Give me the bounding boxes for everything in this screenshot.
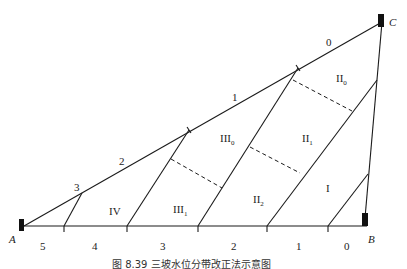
base-label-5: 5	[40, 240, 46, 252]
base-label-3: 3	[160, 240, 166, 252]
station-marker-C	[378, 14, 384, 27]
edge-CB	[365, 22, 382, 218]
station-marker-B	[362, 213, 368, 226]
ac-label-3: 3	[74, 181, 80, 193]
zone-boundaries	[64, 68, 377, 226]
ac-label-0: 0	[326, 36, 332, 48]
baseline-ticks	[64, 226, 328, 232]
base-label-2: 2	[231, 240, 237, 252]
base-label-4: 4	[92, 240, 98, 252]
zone-label-III0: III0	[220, 132, 235, 147]
zone-label-II2: II2	[253, 193, 264, 208]
base-label-0: 0	[344, 240, 350, 252]
point-label-C: C	[389, 16, 397, 28]
subzone-dividers	[171, 80, 352, 188]
figure-caption: 图 8.39 三坡水位分带改正法示意图	[112, 258, 271, 269]
point-label-B: B	[368, 233, 375, 245]
ac-label-1: 1	[232, 91, 238, 103]
zone-label-II0: II0	[336, 72, 347, 87]
point-label-A: A	[8, 233, 16, 245]
edge-AC	[24, 22, 382, 226]
ac-ticks	[187, 65, 300, 133]
zone-label-IV: IV	[109, 205, 121, 217]
station-marker-A	[19, 219, 24, 231]
zone-label-I: I	[326, 182, 330, 194]
water-level-zoning-diagram: A B C 0 1 2 3 5 4 3 2 1 0 IV III1 III0 I…	[0, 0, 407, 269]
zone-label-II1: II1	[302, 132, 313, 147]
base-label-1: 1	[296, 240, 302, 252]
ac-label-2: 2	[119, 155, 125, 167]
zone-label-III1: III1	[173, 203, 188, 218]
